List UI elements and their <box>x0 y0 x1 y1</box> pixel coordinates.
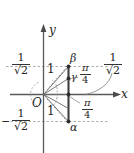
angle-label-lower: π 4 <box>82 98 93 120</box>
dot-beta <box>67 65 71 69</box>
angle-arc-3 <box>57 92 58 98</box>
origin-label: O <box>32 97 42 109</box>
radius-label-upper: 1 <box>47 63 55 75</box>
y-axis-arrowhead <box>41 24 47 32</box>
radius-label-lower: 1 <box>47 105 55 117</box>
y-axis-label: y <box>49 24 56 36</box>
x-axis-label: x <box>121 88 128 100</box>
y-negative-numerator: 1 <box>12 108 30 119</box>
x-axis-arrowhead <box>113 92 121 98</box>
y-positive-value-label: 1 √2 <box>12 52 30 76</box>
leader-lower-angle <box>69 96 81 104</box>
y-negative-denominator: √2 <box>12 121 30 132</box>
dot-gamma <box>67 77 71 81</box>
math-figure: y x O β γ α 1 1 π 4 π 4 1 √2 − 1 √2 1 √2 <box>0 0 134 153</box>
y-negative-sign: − <box>1 115 10 128</box>
x-value-label: 1 √2 <box>104 52 122 76</box>
dot-foot <box>67 93 71 97</box>
angle-label-upper: π 4 <box>80 63 91 85</box>
angle-arc-2 <box>57 86 58 92</box>
y-positive-denominator: √2 <box>12 65 30 76</box>
angle-lower-denominator: 4 <box>82 110 93 120</box>
x-value-denominator: √2 <box>104 65 122 76</box>
angle-upper-denominator: 4 <box>80 75 91 85</box>
point-label-beta: β <box>70 53 76 64</box>
y-positive-numerator: 1 <box>12 52 30 63</box>
x-value-numerator: 1 <box>104 52 122 63</box>
angle-lower-numerator: π <box>82 98 93 108</box>
point-label-gamma: γ <box>71 72 77 82</box>
point-label-alpha: α <box>70 122 77 133</box>
angle-upper-numerator: π <box>80 63 91 73</box>
y-negative-value-label: 1 √2 <box>12 108 30 132</box>
